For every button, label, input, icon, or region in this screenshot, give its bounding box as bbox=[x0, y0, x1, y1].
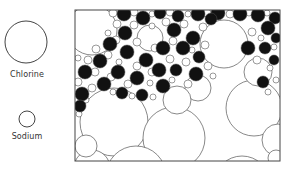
sodium-ion-icon bbox=[149, 23, 155, 29]
sodium-ion-icon bbox=[204, 62, 212, 70]
chlorine-ion-dark-icon bbox=[97, 77, 111, 91]
sodium-ion-icon bbox=[210, 73, 216, 79]
sodium-ion-icon bbox=[166, 55, 174, 63]
sodium-ion-icon bbox=[110, 89, 116, 95]
sodium-ion-icon bbox=[265, 89, 271, 95]
chlorine-ion-dark-icon bbox=[93, 54, 107, 68]
sodium-ion-icon bbox=[133, 38, 141, 46]
sodium-ion-icon bbox=[182, 58, 190, 66]
sodium-ion-icon bbox=[201, 41, 209, 49]
sodium-ion-icon bbox=[258, 35, 264, 41]
chlorine-ion-dark-icon bbox=[136, 89, 148, 101]
chlorine-ion-dark-icon bbox=[156, 41, 170, 55]
legend-sodium-label: Sodium bbox=[4, 132, 50, 141]
legend-chlorine-label: Chlorine bbox=[4, 70, 50, 79]
sodium-ion-icon bbox=[130, 21, 138, 29]
chlorine-ion-dark-icon bbox=[152, 63, 166, 77]
sodium-ion-icon bbox=[169, 37, 177, 45]
chlorine-ion-dark-icon bbox=[78, 65, 92, 79]
chlorine-ion-dark-icon bbox=[189, 67, 203, 81]
sodium-ion-icon bbox=[105, 30, 111, 36]
sodium-ion-icon bbox=[253, 56, 261, 64]
chlorine-ion-icon bbox=[75, 135, 97, 157]
chlorine-ion-dark-icon bbox=[139, 53, 153, 67]
chlorine-ion-dark-icon bbox=[74, 100, 86, 112]
sodium-ion-icon bbox=[75, 55, 81, 61]
sodium-ion-icon bbox=[271, 44, 277, 50]
chlorine-ion-dark-icon bbox=[257, 76, 269, 88]
sodium-ion-icon bbox=[147, 80, 153, 86]
sodium-ion-icon bbox=[150, 94, 156, 100]
sodium-ion-icon bbox=[169, 77, 175, 83]
sodium-ion-icon bbox=[113, 20, 121, 28]
chlorine-ion-dark-icon bbox=[193, 51, 205, 63]
chlorine-ion-dark-icon bbox=[259, 42, 271, 54]
chlorine-ion-dark-icon bbox=[205, 13, 217, 25]
chlorine-ion-dark-icon bbox=[170, 64, 182, 76]
sodium-ion-icon bbox=[184, 80, 192, 88]
ion-field bbox=[67, 5, 288, 169]
chlorine-ion-dark-icon bbox=[116, 87, 128, 99]
chlorine-ion-dark-icon bbox=[156, 79, 170, 93]
chlorine-ion-dark-icon bbox=[167, 23, 181, 37]
ionic-solution-diagram bbox=[0, 0, 288, 169]
sodium-ion-icon bbox=[129, 93, 135, 99]
chlorine-ion-dark-icon bbox=[136, 11, 150, 25]
sodium-ion-icon bbox=[88, 84, 96, 92]
chlorine-ion-dark-icon bbox=[241, 41, 255, 55]
sodium-ion-icon bbox=[84, 56, 92, 64]
chlorine-ion-dark-icon bbox=[233, 7, 247, 21]
legend-sodium-icon bbox=[19, 111, 35, 127]
chlorine-ion-dark-icon bbox=[120, 45, 134, 59]
sodium-ion-icon bbox=[162, 18, 170, 26]
sodium-ion-icon bbox=[267, 65, 273, 71]
sodium-ion-icon bbox=[199, 23, 207, 31]
sodium-ion-icon bbox=[116, 59, 122, 65]
chlorine-ion-dark-icon bbox=[172, 10, 184, 22]
chlorine-ion-dark-icon bbox=[75, 87, 89, 101]
sodium-ion-icon bbox=[92, 45, 100, 53]
chlorine-ion-dark-icon bbox=[130, 71, 144, 85]
chlorine-ion-dark-icon bbox=[261, 21, 275, 35]
legend-chlorine-icon bbox=[5, 21, 47, 63]
chlorine-ion-icon bbox=[268, 150, 284, 166]
chlorine-ion-dark-icon bbox=[103, 37, 117, 51]
chlorine-ion-icon bbox=[164, 162, 232, 169]
chlorine-ion-dark-icon bbox=[191, 7, 205, 21]
chlorine-ion-dark-icon bbox=[117, 7, 131, 21]
chlorine-ion-icon bbox=[214, 156, 270, 169]
sodium-ion-icon bbox=[273, 77, 279, 83]
chlorine-ion-dark-icon bbox=[111, 65, 125, 79]
sodium-ion-icon bbox=[248, 28, 256, 36]
chlorine-ion-dark-icon bbox=[176, 41, 190, 55]
sodium-ion-icon bbox=[185, 11, 191, 17]
chlorine-ion-dark-icon bbox=[118, 26, 132, 40]
chlorine-ion-dark-icon bbox=[269, 55, 279, 65]
chlorine-ion-dark-icon bbox=[154, 7, 166, 19]
